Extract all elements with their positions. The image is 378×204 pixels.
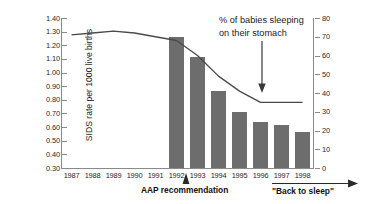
x-tick-1993: 1993 bbox=[190, 171, 206, 180]
stomach-sleeping-annotation: % of babies sleeping on their stomach bbox=[219, 14, 304, 39]
x-tick-1987: 1987 bbox=[64, 171, 80, 180]
y-tick-right-20: 20 bbox=[322, 126, 330, 135]
bar-1993 bbox=[190, 57, 205, 168]
x-axis-line bbox=[61, 168, 314, 169]
y-tick-right-50: 50 bbox=[322, 70, 330, 79]
bar-1995 bbox=[232, 112, 247, 168]
bar-1992 bbox=[169, 37, 184, 168]
y-tick-left-1.20: 1.20 bbox=[46, 41, 60, 50]
back-to-sleep-label: "Back to sleep" bbox=[272, 186, 334, 196]
y-tick-left-0.90: 0.90 bbox=[46, 82, 60, 91]
y-tick-right-60: 60 bbox=[322, 51, 330, 60]
y-tick-left-1.10: 1.10 bbox=[46, 54, 60, 63]
x-tick-1988: 1988 bbox=[85, 171, 101, 180]
x-tick-1992: 1992 bbox=[169, 171, 185, 180]
y-tick-right-10: 10 bbox=[322, 145, 330, 154]
x-tick-1997: 1997 bbox=[274, 171, 290, 180]
aap-recommendation-label: AAP recommendation bbox=[141, 185, 228, 195]
y-tick-left-1.00: 1.00 bbox=[46, 68, 60, 77]
x-tick-1994: 1994 bbox=[211, 171, 227, 180]
bar-1996 bbox=[253, 122, 268, 168]
y-tick-left-0.80: 0.80 bbox=[46, 95, 60, 104]
y-tick-right-40: 40 bbox=[322, 89, 330, 98]
x-tick-1990: 1990 bbox=[127, 171, 143, 180]
y-tick-right-70: 70 bbox=[322, 32, 330, 41]
y-axis-right-line bbox=[313, 18, 314, 169]
annotation-line-2: on their stomach bbox=[219, 27, 304, 40]
bar-1994 bbox=[211, 91, 226, 168]
y-tick-left-1.30: 1.30 bbox=[46, 27, 60, 36]
x-tick-1998: 1998 bbox=[295, 171, 311, 180]
bar-1998 bbox=[295, 132, 310, 168]
y-tick-right-0: 0 bbox=[322, 164, 326, 173]
sids-chart: SIDS rate per 1000 live births 1.401.301… bbox=[0, 0, 378, 204]
bar-1997 bbox=[274, 125, 289, 168]
y-tick-left-0.30: 0.30 bbox=[46, 164, 60, 173]
x-tick-1995: 1995 bbox=[232, 171, 248, 180]
x-tick-1989: 1989 bbox=[106, 171, 122, 180]
x-tick-1991: 1991 bbox=[148, 171, 164, 180]
y-tick-left-0.70: 0.70 bbox=[46, 109, 60, 118]
y-tick-right-30: 30 bbox=[322, 107, 330, 116]
y-tick-left-0.60: 0.60 bbox=[46, 123, 60, 132]
annotation-line-1: % of babies sleeping bbox=[219, 14, 304, 27]
y-tick-right-80: 80 bbox=[322, 14, 330, 23]
y-tick-left-0.50: 0.50 bbox=[46, 136, 60, 145]
y-tick-left-0.40: 0.40 bbox=[46, 150, 60, 159]
y-tick-left-1.40: 1.40 bbox=[46, 14, 60, 23]
x-tick-1996: 1996 bbox=[253, 171, 269, 180]
bar-series bbox=[61, 18, 313, 168]
